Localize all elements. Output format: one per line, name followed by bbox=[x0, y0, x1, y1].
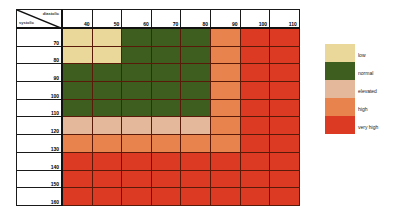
heatmap-cell bbox=[210, 28, 240, 46]
heatmap-cell bbox=[270, 82, 300, 100]
heatmap-cell bbox=[210, 46, 240, 64]
heatmap-cell bbox=[151, 64, 181, 82]
heatmap-cell bbox=[92, 46, 122, 64]
row-header: 90 bbox=[17, 64, 63, 82]
heatmap-cell bbox=[270, 117, 300, 135]
heatmap-cell bbox=[92, 117, 122, 135]
heatmap-cell bbox=[92, 170, 122, 188]
row-header: 140 bbox=[17, 152, 63, 170]
heatmap-cell bbox=[92, 135, 122, 153]
heatmap-cell bbox=[92, 82, 122, 100]
heatmap-cell bbox=[181, 82, 211, 100]
heatmap-cell bbox=[210, 188, 240, 206]
table-row: 160 bbox=[17, 188, 300, 206]
heatmap-cell bbox=[62, 170, 92, 188]
heatmap-cell bbox=[270, 64, 300, 82]
table-row: 80 bbox=[17, 46, 300, 64]
heatmap-cell bbox=[181, 117, 211, 135]
legend-swatch bbox=[325, 44, 355, 62]
heatmap-cell bbox=[240, 99, 270, 117]
legend-item: high bbox=[325, 98, 378, 116]
diastolic-label: diastolic bbox=[43, 11, 59, 17]
heatmap-cell bbox=[122, 152, 152, 170]
column-header: 70 bbox=[151, 10, 181, 29]
row-header: 70 bbox=[17, 28, 63, 46]
heatmap-cell bbox=[240, 64, 270, 82]
row-header: 80 bbox=[17, 46, 63, 64]
table-row: 120 bbox=[17, 117, 300, 135]
legend-item: normal bbox=[325, 62, 378, 80]
heatmap-cell bbox=[62, 99, 92, 117]
column-header: 40 bbox=[62, 10, 92, 29]
heatmap-cell bbox=[240, 135, 270, 153]
heatmap-cell bbox=[62, 117, 92, 135]
heatmap-cell bbox=[210, 152, 240, 170]
heatmap-cell bbox=[122, 28, 152, 46]
table-row: 140 bbox=[17, 152, 300, 170]
heatmap-cell bbox=[181, 64, 211, 82]
heatmap-cell bbox=[92, 28, 122, 46]
heatmap-cell bbox=[240, 170, 270, 188]
legend-swatch bbox=[325, 62, 355, 80]
heatmap-cell bbox=[122, 46, 152, 64]
heatmap-cell bbox=[240, 117, 270, 135]
heatmap-cell bbox=[62, 64, 92, 82]
heatmap-cell bbox=[92, 99, 122, 117]
heatmap-cell bbox=[92, 152, 122, 170]
heatmap-cell bbox=[151, 46, 181, 64]
heatmap-cell bbox=[270, 28, 300, 46]
column-header: 80 bbox=[181, 10, 211, 29]
heatmap-cell bbox=[210, 64, 240, 82]
heatmap-cell bbox=[270, 188, 300, 206]
heatmap-cell bbox=[122, 188, 152, 206]
heatmap-cell bbox=[151, 135, 181, 153]
heatmap-cell bbox=[181, 188, 211, 206]
legend-label: low bbox=[358, 52, 366, 58]
heatmap-cell bbox=[240, 152, 270, 170]
legend-label: elevated bbox=[358, 88, 377, 94]
heatmap-cell bbox=[151, 188, 181, 206]
heatmap-cell bbox=[240, 188, 270, 206]
heatmap-cell bbox=[151, 99, 181, 117]
column-header: 110 bbox=[270, 10, 300, 29]
heatmap-cell bbox=[62, 28, 92, 46]
heatmap-cell bbox=[181, 28, 211, 46]
heatmap-cell bbox=[210, 82, 240, 100]
legend-swatch bbox=[325, 80, 355, 98]
column-header: 90 bbox=[210, 10, 240, 29]
legend-item: very high bbox=[325, 116, 378, 134]
heatmap-cell bbox=[270, 99, 300, 117]
legend-label: very high bbox=[358, 124, 378, 130]
heatmap-cell bbox=[62, 46, 92, 64]
heatmap-cell bbox=[181, 99, 211, 117]
corner-header: diastolicsystolic bbox=[17, 10, 63, 29]
heatmap-cell bbox=[151, 82, 181, 100]
heatmap-cell bbox=[122, 117, 152, 135]
table-row: 150 bbox=[17, 170, 300, 188]
systolic-label: systolic bbox=[19, 20, 34, 26]
heatmap-cell bbox=[62, 135, 92, 153]
heatmap-cell bbox=[151, 117, 181, 135]
heatmap-cell bbox=[210, 117, 240, 135]
row-header: 130 bbox=[17, 135, 63, 153]
legend-item: low bbox=[325, 44, 378, 62]
heatmap-cell bbox=[240, 46, 270, 64]
heatmap-cell bbox=[181, 152, 211, 170]
heatmap-cell bbox=[151, 170, 181, 188]
legend: lownormalelevatedhighvery high bbox=[325, 44, 378, 134]
row-header: 160 bbox=[17, 188, 63, 206]
heatmap-cell bbox=[151, 28, 181, 46]
heatmap-cell bbox=[122, 99, 152, 117]
table-row: 130 bbox=[17, 135, 300, 153]
table-row: 70 bbox=[17, 28, 300, 46]
heatmap-cell bbox=[240, 82, 270, 100]
heatmap-cell bbox=[181, 46, 211, 64]
column-header: 60 bbox=[122, 10, 152, 29]
heatmap-cell bbox=[151, 152, 181, 170]
heatmap-cell bbox=[210, 170, 240, 188]
heatmap-cell bbox=[92, 188, 122, 206]
row-header: 120 bbox=[17, 117, 63, 135]
legend-label: high bbox=[358, 106, 367, 112]
heatmap-cell bbox=[122, 64, 152, 82]
heatmap-cell bbox=[122, 170, 152, 188]
